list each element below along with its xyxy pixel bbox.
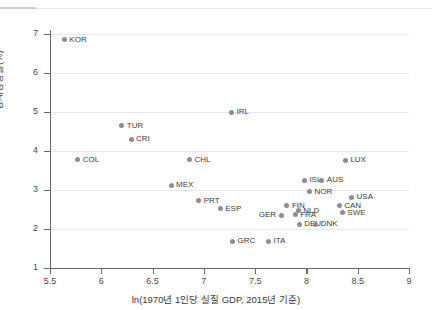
scatter-point [129, 137, 134, 142]
x-tick-label: 5.5 [30, 276, 70, 286]
gridline-y [50, 151, 409, 152]
gridline-y [50, 34, 409, 35]
scatter-point-label: DNK [321, 219, 338, 228]
x-tick-label: 7 [184, 276, 224, 286]
scatter-point [187, 157, 192, 162]
scatter-point-label: AUS [327, 175, 343, 184]
scatter-point [266, 239, 271, 244]
scatter-point [293, 212, 298, 217]
scatter-point [75, 157, 80, 162]
y-axis-label: 경제성장률(%) [0, 50, 5, 110]
scatter-point [302, 178, 307, 183]
y-tick-label: 3 [4, 184, 38, 194]
scatter-point [343, 158, 348, 163]
cut-off-header-text: —— —— ——— — —— ——— ———— [24, 0, 215, 4]
scatter-point [229, 110, 234, 115]
x-axis-label: ln(1970년 1인당 실질 GDP, 2015년 기준) [0, 292, 432, 306]
y-tick-label: 6 [4, 67, 38, 77]
scatter-point [169, 183, 174, 188]
scatter-point-label: GER [259, 210, 276, 219]
scatter-point [319, 178, 324, 183]
scatter-point [279, 213, 284, 218]
scatter-point-label: COL [83, 155, 99, 164]
scatter-point [340, 210, 345, 215]
scatter-point-label: FRA [300, 210, 316, 219]
x-tick-label: 9 [389, 276, 429, 286]
scatter-point [119, 123, 124, 128]
x-tick [409, 268, 410, 274]
y-tick-label: 4 [4, 145, 38, 155]
scatter-point-label: ESP [225, 204, 241, 213]
scatter-point [218, 206, 223, 211]
scatter-point [307, 189, 312, 194]
scatter-point [349, 195, 354, 200]
x-tick-label: 8 [286, 276, 326, 286]
scatter-point [62, 37, 67, 42]
scatter-point [230, 239, 235, 244]
y-axis-line [50, 30, 51, 272]
y-tick-label: 1 [4, 262, 38, 272]
scatter-point-label: SWE [347, 208, 365, 217]
y-tick-label: 5 [4, 106, 38, 116]
scatter-point [313, 222, 318, 227]
scatter-point-label: MEX [176, 180, 193, 189]
scatter-point [297, 222, 302, 227]
scatter-point-label: CHL [194, 155, 210, 164]
scatter-point [196, 198, 201, 203]
gridline-y [50, 229, 409, 230]
y-tick-label: 7 [4, 28, 38, 38]
scatter-point-label: CRI [136, 134, 150, 143]
x-tick-label: 7.5 [235, 276, 275, 286]
header-divider-accent [0, 7, 36, 9]
scatter-point [284, 203, 289, 208]
scatter-point-label: LUX [350, 155, 366, 164]
y-tick-label: 2 [4, 223, 38, 233]
scatter-point-label: TUR [127, 121, 143, 130]
x-axis-line [50, 268, 409, 269]
x-tick-label: 6 [81, 276, 121, 286]
scatter-chart: 12345675.566.577.588.59 KORTURCRICOLIRLC… [0, 10, 432, 310]
scatter-point-label: GRC [238, 236, 256, 245]
x-tick-label: 6.5 [133, 276, 173, 286]
scatter-point-label: KOR [69, 35, 86, 44]
gridline-y [50, 190, 409, 191]
gridline-y [50, 73, 409, 74]
scatter-point-label: PRT [204, 196, 220, 205]
cut-off-header-strip: —— —— ——— — —— ——— ———— [0, 0, 432, 10]
x-tick-label: 8.5 [338, 276, 378, 286]
scatter-point-label: ITA [273, 236, 285, 245]
scatter-point-label: NOR [315, 187, 333, 196]
scatter-point [337, 203, 342, 208]
header-divider [0, 8, 432, 9]
scatter-point-label: IRL [237, 107, 249, 116]
